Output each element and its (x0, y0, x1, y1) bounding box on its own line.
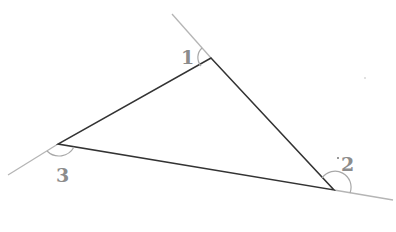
extension-line-2 (334, 190, 393, 200)
angle-label-2: 2 (341, 153, 354, 175)
extension-line-3 (8, 144, 58, 175)
angle-label-1: 1 (181, 46, 194, 68)
triangle (58, 58, 334, 190)
triangle-diagram: 1 2 3 (0, 0, 396, 232)
angle-label-3: 3 (56, 164, 69, 186)
speck (337, 157, 339, 159)
speck (364, 77, 366, 79)
